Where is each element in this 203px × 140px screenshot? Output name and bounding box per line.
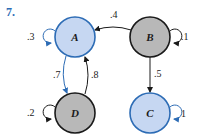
label-d-to-a: .8: [91, 69, 99, 80]
label-b-self: .1: [181, 31, 189, 42]
node-d: D: [55, 93, 95, 133]
self-loop-d: [43, 105, 55, 119]
label-d-self: .2: [27, 107, 35, 118]
self-loop-a: [43, 29, 55, 43]
svg-text:D: D: [70, 107, 79, 119]
edge-a-to-d: [63, 56, 67, 93]
label-b-to-c: .5: [154, 68, 162, 79]
edge-b-to-a: [95, 27, 131, 30]
label-c-self: 1: [181, 108, 186, 119]
label-b-to-a: .4: [110, 9, 118, 20]
node-c: C: [130, 93, 170, 133]
node-b: B: [130, 17, 170, 57]
edge-d-to-a: [85, 57, 88, 94]
svg-text:C: C: [146, 107, 154, 119]
svg-text:B: B: [145, 31, 153, 43]
label-a-self: .3: [27, 31, 35, 42]
svg-text:A: A: [70, 31, 78, 43]
markov-chain-diagram: A B C D .3 .1 .2 1 .4 .5 .7 .8: [0, 0, 203, 140]
label-a-to-d: .7: [53, 69, 61, 80]
node-a: A: [55, 17, 95, 57]
